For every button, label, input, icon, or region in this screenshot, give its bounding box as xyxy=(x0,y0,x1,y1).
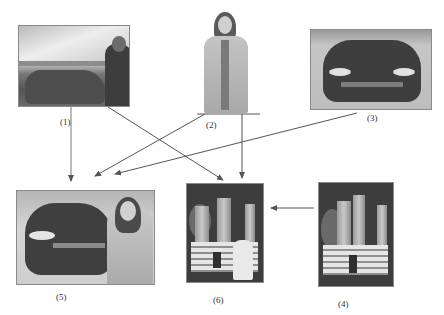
photo-1-car-and-man xyxy=(18,25,130,107)
headlight-left xyxy=(329,68,351,76)
man-shape xyxy=(105,44,130,107)
woman-scarf xyxy=(221,40,229,110)
photo-3-car-front xyxy=(310,29,432,110)
label-6: (6) xyxy=(213,296,224,305)
woman-face xyxy=(120,201,136,221)
car-shape xyxy=(25,70,105,104)
car-grille xyxy=(53,243,105,248)
photo-6-composite-temple-person xyxy=(186,183,264,283)
arrow-3-to-5 xyxy=(115,113,357,174)
person-figure xyxy=(233,240,253,280)
headlight-right xyxy=(393,68,415,76)
man-head xyxy=(112,36,126,52)
label-3: (3) xyxy=(367,114,378,123)
temple-door xyxy=(213,252,221,268)
headlight xyxy=(29,231,55,240)
photo-5-composite-car-woman xyxy=(16,190,155,285)
photo-2-woman xyxy=(200,12,252,113)
woman-face xyxy=(218,16,232,34)
label-5: (5) xyxy=(56,293,67,302)
label-4: (4) xyxy=(338,300,349,309)
label-1: (1) xyxy=(60,118,71,127)
photo-4-temple xyxy=(318,182,394,287)
arrow-1-to-6 xyxy=(108,107,223,180)
label-2: (2) xyxy=(206,121,217,130)
temple-door xyxy=(349,255,357,273)
arrow-2-to-5 xyxy=(95,114,205,176)
car-grille xyxy=(341,82,403,87)
